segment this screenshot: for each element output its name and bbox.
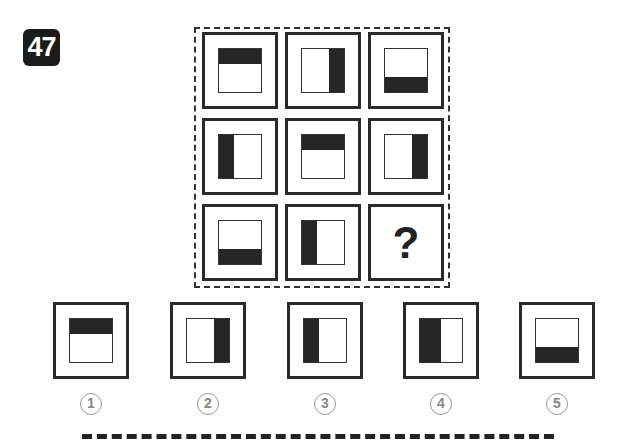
inner-square <box>384 48 428 93</box>
inner-square <box>218 48 262 93</box>
shade-right <box>412 135 427 178</box>
inner-square <box>535 318 579 363</box>
shade-top <box>302 135 344 150</box>
bottom-dashed-divider <box>82 434 554 439</box>
inner-square <box>384 134 428 179</box>
option-2-label[interactable]: 2 <box>197 393 219 415</box>
shade-bottom <box>536 347 578 362</box>
option-3[interactable] <box>287 302 363 379</box>
grid-cell-r2c2 <box>285 118 361 195</box>
grid-cell-r1c1 <box>202 32 278 109</box>
shade-bottom <box>385 77 427 92</box>
grid-cell-r3c1 <box>202 204 278 281</box>
grid-cell-r1c2 <box>285 32 361 109</box>
puzzle-number-badge: 47 <box>23 29 60 66</box>
inner-square <box>69 318 113 363</box>
shade-top <box>70 319 112 334</box>
option-4-label[interactable]: 4 <box>430 393 452 415</box>
shade-left <box>219 135 234 178</box>
grid-cell-r2c3 <box>368 118 444 195</box>
option-4[interactable] <box>403 302 479 379</box>
grid-cell-r3c3-missing: ? <box>368 204 444 281</box>
grid-cell-r2c1 <box>202 118 278 195</box>
inner-square <box>301 48 345 93</box>
grid-cell-r1c3 <box>368 32 444 109</box>
option-3-label[interactable]: 3 <box>314 393 336 415</box>
inner-square <box>218 220 262 265</box>
inner-square <box>301 220 345 265</box>
option-5-label[interactable]: 5 <box>546 393 568 415</box>
inner-square <box>419 318 463 363</box>
shade-left <box>304 319 319 362</box>
shade-right <box>214 319 229 362</box>
option-1-label[interactable]: 1 <box>80 393 102 415</box>
question-mark: ? <box>371 207 441 278</box>
option-1[interactable] <box>53 302 129 379</box>
grid-cell-r3c2 <box>285 204 361 281</box>
shade-right <box>329 49 344 92</box>
option-5[interactable] <box>519 302 595 379</box>
inner-square <box>186 318 230 363</box>
shade-left <box>302 221 317 264</box>
shade-bottom <box>219 249 261 264</box>
shade-top <box>219 49 261 64</box>
shade-left-wide <box>420 319 441 362</box>
inner-square <box>301 134 345 179</box>
option-2[interactable] <box>170 302 246 379</box>
inner-square <box>303 318 347 363</box>
inner-square <box>218 134 262 179</box>
